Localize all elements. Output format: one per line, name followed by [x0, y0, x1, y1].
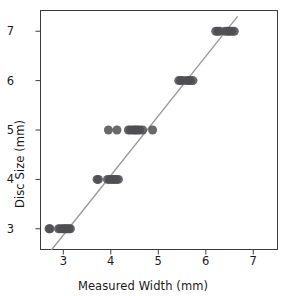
data-point — [230, 27, 239, 36]
scatter-plot-figure: Measured Width (mm) Disc Size (mm) 34567… — [0, 0, 286, 296]
y-tick-label: 4 — [7, 172, 14, 186]
data-point — [94, 175, 103, 184]
data-point — [114, 175, 123, 184]
data-point — [148, 126, 157, 135]
x-axis-title: Measured Width (mm) — [0, 279, 286, 293]
plot-frame — [41, 11, 278, 250]
x-tick-label: 7 — [250, 254, 257, 268]
plot-canvas — [0, 0, 286, 296]
x-tick-label: 5 — [155, 254, 162, 268]
y-tick-label: 6 — [7, 74, 14, 88]
y-tick-label: 7 — [7, 24, 14, 38]
data-point — [112, 126, 121, 135]
y-axis-title: Disc Size (mm) — [13, 120, 27, 208]
data-point — [66, 224, 75, 233]
data-point — [104, 126, 113, 135]
data-point — [188, 76, 197, 85]
y-axis-tick-marks — [36, 31, 41, 229]
x-tick-label: 4 — [107, 254, 114, 268]
data-point — [138, 126, 147, 135]
x-tick-label: 6 — [202, 254, 209, 268]
y-tick-label: 5 — [7, 123, 14, 137]
x-tick-label: 3 — [60, 254, 67, 268]
data-point — [45, 224, 54, 233]
y-tick-label: 3 — [7, 222, 14, 236]
